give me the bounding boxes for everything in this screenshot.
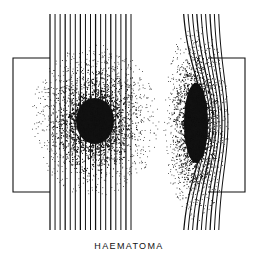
stipple-dot — [200, 130, 201, 131]
stipple-dot — [69, 101, 70, 102]
stipple-dot — [208, 177, 209, 178]
stipple-dot — [38, 87, 39, 88]
stipple-dot — [182, 144, 183, 145]
stipple-dot — [122, 159, 123, 160]
stipple-dot — [41, 111, 42, 112]
stipple-dot — [122, 137, 123, 138]
stipple-dot — [180, 94, 181, 95]
stipple-dot — [71, 142, 72, 143]
stipple-dot — [84, 178, 85, 179]
stipple-dot — [92, 102, 93, 103]
stipple-dot — [132, 78, 133, 79]
stipple-dot — [112, 115, 113, 116]
stipple-dot — [84, 108, 85, 109]
stipple-dot — [190, 155, 191, 156]
stipple-dot — [149, 86, 150, 87]
stipple-dot — [109, 98, 110, 99]
stipple-dot — [126, 58, 127, 59]
stipple-dot — [53, 113, 54, 114]
stipple-dot — [97, 100, 98, 101]
stipple-dot — [215, 104, 216, 105]
stipple-dot — [120, 83, 121, 84]
stipple-dot — [179, 114, 180, 115]
stipple-dot — [129, 85, 130, 86]
stipple-dot — [76, 73, 77, 74]
stipple-dot — [89, 146, 90, 147]
stipple-dot — [192, 173, 193, 174]
stipple-dot — [136, 125, 137, 126]
stipple-dot — [86, 95, 87, 96]
stipple-dot — [191, 73, 192, 74]
stipple-dot — [156, 125, 157, 126]
stipple-dot — [53, 145, 54, 146]
stipple-dot — [199, 117, 200, 118]
stipple-dot — [76, 92, 77, 93]
stipple-dot — [222, 131, 223, 132]
stipple-dot — [111, 82, 112, 83]
stipple-dot — [196, 42, 197, 43]
stipple-dot — [113, 147, 114, 148]
stipple-dot — [82, 170, 83, 171]
stipple-dot — [46, 129, 47, 130]
stipple-dot — [120, 173, 121, 174]
stipple-dot — [89, 112, 90, 113]
stipple-dot — [81, 62, 82, 63]
stipple-dot — [97, 89, 98, 90]
stipple-dot — [216, 186, 217, 187]
stipple-dot — [95, 156, 96, 157]
stipple-dot — [95, 119, 96, 120]
stipple-dot — [195, 188, 196, 189]
stipple-dot — [75, 87, 76, 88]
stipple-dot — [193, 47, 194, 48]
stipple-dot — [58, 110, 59, 111]
stipple-dot — [211, 62, 212, 63]
stipple-dot — [193, 173, 194, 174]
stipple-dot — [82, 169, 83, 170]
stipple-dot — [173, 57, 174, 58]
stipple-dot — [100, 106, 101, 107]
stipple-dot — [77, 80, 78, 81]
stipple-dot — [98, 160, 99, 161]
stipple-dot — [204, 139, 205, 140]
stipple-dot — [216, 111, 217, 112]
stipple-dot — [44, 115, 45, 116]
stipple-dot — [197, 87, 198, 88]
stipple-dot — [75, 127, 76, 128]
stipple-dot — [66, 85, 67, 86]
stipple-dot — [52, 134, 53, 135]
stipple-dot — [70, 134, 71, 135]
stipple-dot — [95, 154, 96, 155]
stipple-dot — [131, 115, 132, 116]
stipple-dot — [197, 82, 198, 83]
stipple-dot — [224, 120, 225, 121]
stipple-dot — [203, 151, 204, 152]
stipple-dot — [67, 138, 68, 139]
stipple-dot — [61, 124, 62, 125]
stipple-dot — [206, 185, 207, 186]
stipple-dot — [186, 49, 187, 50]
stipple-dot — [39, 92, 40, 93]
stipple-dot — [216, 146, 217, 147]
stipple-dot — [209, 106, 210, 107]
stipple-dot — [153, 123, 154, 124]
stipple-dot — [77, 158, 78, 159]
stipple-dot — [106, 92, 107, 93]
stipple-dot — [184, 186, 185, 187]
stipple-dot — [49, 106, 50, 107]
stipple-dot — [182, 112, 183, 113]
stipple-dot — [211, 102, 212, 103]
stipple-dot — [36, 115, 37, 116]
stipple-dot — [115, 90, 116, 91]
stipple-dot — [118, 91, 119, 92]
stipple-dot — [107, 80, 108, 81]
stipple-dot — [191, 97, 192, 98]
stipple-dot — [111, 118, 112, 119]
stipple-dot — [125, 118, 126, 119]
stipple-dot — [211, 122, 212, 123]
stipple-dot — [49, 130, 50, 131]
stipple-dot — [87, 168, 88, 169]
stipple-dot — [111, 143, 112, 144]
stipple-dot — [35, 136, 36, 137]
stipple-dot — [209, 163, 210, 164]
stipple-dot — [205, 121, 206, 122]
